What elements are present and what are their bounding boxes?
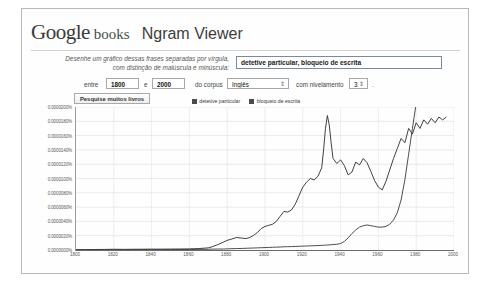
x-axis-tick-label: 1920	[297, 252, 307, 257]
x-axis-tick-label: 1940	[334, 252, 344, 257]
legend-label: detetive particular	[199, 98, 240, 104]
smoothing-select[interactable]: 3 ⇕	[349, 78, 368, 89]
legend-swatch-icon	[192, 99, 197, 104]
legend-item[interactable]: bloqueio de escrita	[249, 98, 300, 104]
x-axis-tick-label: 1800	[70, 252, 80, 257]
y-axis-tick-label: 0.0000020%	[48, 233, 72, 238]
y-axis-tick-label: 0.0000140%	[48, 147, 72, 152]
chevron-down-icon: ⇕	[280, 80, 285, 87]
chevron-down-icon: ⇕	[359, 80, 364, 87]
y-axis-tick-label: 0.0000200%	[48, 105, 72, 110]
x-axis-tick-label: 1840	[145, 252, 155, 257]
between-label: entre	[84, 81, 98, 88]
y-axis-tick-label: 0.0000160%	[48, 133, 72, 138]
y-axis-labels: 0.0000200%0.0000180%0.0000160%0.0000140%…	[22, 107, 74, 251]
smoothing-select-value: 3	[354, 81, 358, 88]
legend-swatch-icon	[249, 99, 254, 104]
legend-label: bloqueio de escrita	[257, 98, 301, 104]
x-axis-tick-label: 1900	[259, 252, 269, 257]
y-axis-tick-label: 0.0000120%	[48, 162, 72, 167]
ngram-chart: 0.0000200%0.0000180%0.0000160%0.0000140%…	[22, 107, 469, 267]
x-axis-tick-label: 1820	[108, 252, 118, 257]
app-header: Google books Ngram Viewer	[31, 20, 243, 45]
y-axis-tick-label: 0.0000100%	[48, 176, 72, 181]
x-axis-tick-label: 1860	[183, 252, 193, 257]
y-axis-tick-label: 0.0000060%	[48, 205, 72, 210]
form-prompt-line2: com distinção de maiúscula e minúscula:	[54, 64, 229, 73]
x-axis-tick-label: 1960	[372, 252, 382, 257]
books-wordmark: books	[94, 26, 130, 43]
ngram-viewer-page: Google books Ngram Viewer Desenhe um grá…	[21, 8, 469, 274]
chart-legend: detetive particular bloqueio de escrita	[22, 98, 469, 104]
trailing-period: .	[372, 81, 374, 88]
year-start-input[interactable]: 1800	[106, 78, 139, 89]
x-axis-tick-label: 1980	[410, 252, 420, 257]
y-axis-tick-label: 0.0000040%	[48, 219, 72, 224]
google-logo: Google	[31, 20, 90, 45]
plot-area[interactable]	[75, 107, 454, 251]
y-axis-tick-label: 0.0000180%	[48, 119, 72, 124]
header-divider	[31, 50, 460, 51]
year-end-input[interactable]: 2000	[152, 78, 185, 89]
query-input[interactable]: detetive particular, bloqueio de escrita	[236, 56, 442, 69]
x-axis-tick-label: 2000	[448, 252, 458, 257]
x-axis-labels: 1800182018401860188019001920194019601980…	[75, 252, 454, 264]
legend-item[interactable]: detetive particular	[192, 98, 240, 104]
corpus-select-value: Inglês	[232, 81, 249, 88]
y-axis-tick-label: 0.0000000%	[48, 248, 72, 253]
corpus-label: do corpus	[195, 81, 223, 88]
and-label: e	[144, 81, 148, 88]
query-options-row: entre 1800 e 2000 do corpus Inglês ⇕ com…	[22, 77, 469, 91]
y-axis-tick-label: 0.0000080%	[48, 190, 72, 195]
page-title: Ngram Viewer	[142, 25, 243, 43]
form-prompt-line1: Desenhe um gráfico dessas frases separad…	[54, 55, 229, 64]
corpus-select[interactable]: Inglês ⇕	[227, 78, 289, 89]
x-axis-tick-label: 1880	[221, 252, 231, 257]
smoothing-label: com nivelamento	[296, 81, 344, 88]
form-prompt: Desenhe um gráfico dessas frases separad…	[54, 55, 229, 72]
